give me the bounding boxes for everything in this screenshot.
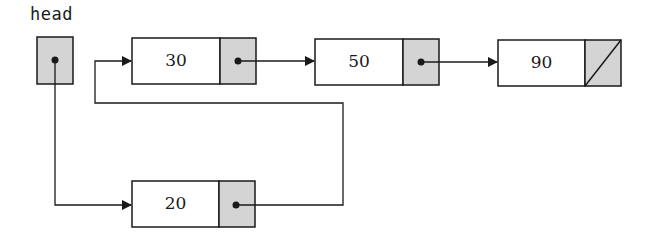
node-value-30: 30: [132, 50, 220, 70]
node-value-20: 20: [132, 193, 219, 213]
linked-list-diagram: [0, 0, 653, 245]
node-value-90: 90: [498, 52, 585, 72]
node-value-50: 50: [315, 51, 403, 71]
